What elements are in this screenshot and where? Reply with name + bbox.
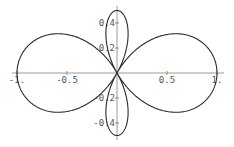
polar-plot: -1.-0.50.51. 0.40.2-0.2-0.4 xyxy=(0,0,234,147)
x-tick-label: -0.5 xyxy=(56,75,78,85)
x-tick-label: 0.5 xyxy=(159,75,175,85)
y-tick-label: -0.4 xyxy=(93,118,115,128)
